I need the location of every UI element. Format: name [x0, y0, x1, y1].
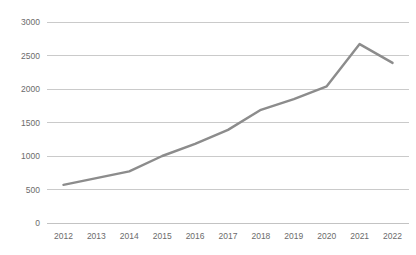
x-tick-label: 2018: [251, 231, 270, 241]
x-tick-label: 2021: [350, 231, 369, 241]
x-tick-label: 2016: [186, 231, 205, 241]
x-axis-tick-labels: 2012201320142015201620172018201920202021…: [54, 231, 402, 241]
x-tick-label: 2015: [153, 231, 172, 241]
y-tick-label: 1500: [21, 118, 40, 128]
series-line: [63, 44, 392, 185]
y-tick-label: 2500: [21, 51, 40, 61]
y-tick-label: 500: [26, 185, 40, 195]
x-tick-label: 2012: [54, 231, 73, 241]
x-tick-label: 2022: [383, 231, 402, 241]
x-tick-label: 2014: [120, 231, 139, 241]
chart-canvas: 050010001500200025003000 201220132014201…: [0, 0, 416, 255]
x-tick-label: 2019: [284, 231, 303, 241]
line-chart: 050010001500200025003000 201220132014201…: [0, 0, 416, 255]
y-tick-label: 1000: [21, 151, 40, 161]
x-tick-label: 2017: [219, 231, 238, 241]
x-tick-label: 2013: [87, 231, 106, 241]
y-tick-label: 3000: [21, 17, 40, 27]
y-tick-label: 0: [35, 218, 40, 228]
y-axis-tick-labels: 050010001500200025003000: [21, 17, 40, 228]
data-series: [63, 44, 392, 185]
x-tick-label: 2020: [317, 231, 336, 241]
y-tick-label: 2000: [21, 84, 40, 94]
